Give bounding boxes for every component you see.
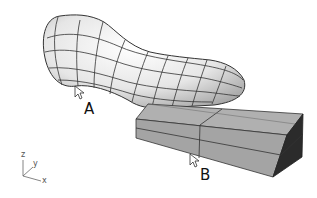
label-a: A (84, 100, 94, 118)
box[interactable] (136, 104, 303, 177)
axis-gizmo-icon (23, 160, 41, 181)
axis-x-label: x (42, 176, 47, 185)
label-b: B (200, 166, 210, 184)
freeform-surface[interactable] (43, 15, 244, 108)
3d-viewport[interactable]: A B z y x (0, 0, 317, 198)
scene (0, 0, 317, 198)
axis-z-label: z (21, 150, 25, 159)
axis-y-label: y (33, 159, 38, 168)
cursor-arrow-icon-a (75, 86, 84, 99)
